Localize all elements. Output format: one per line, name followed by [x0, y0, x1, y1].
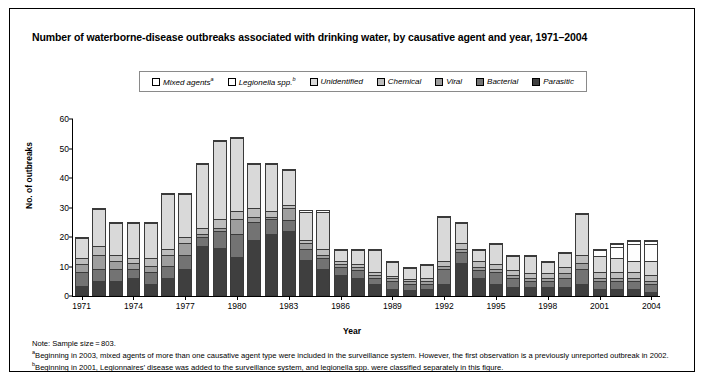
- bar-1994[interactable]: [472, 249, 486, 296]
- bar-2001[interactable]: [593, 249, 607, 296]
- bar-1976[interactable]: [161, 193, 175, 296]
- footnote-b-text: Beginning in 2001, Legionnaires’ disease…: [35, 362, 503, 371]
- bar-segment-parasitic: [490, 284, 502, 295]
- y-axis-tick-mark: [69, 178, 73, 179]
- bar-segment-unidentified: [335, 250, 347, 261]
- x-axis-tick-label: 1992: [435, 301, 454, 311]
- bar-1975[interactable]: [144, 222, 158, 296]
- bar-1998[interactable]: [541, 261, 555, 296]
- bar-segment-chemical: [93, 246, 105, 255]
- bar-segment-viral: [110, 261, 122, 270]
- x-axis-tick-mark: [82, 296, 83, 300]
- bar-segment-bacterial: [473, 270, 485, 278]
- x-axis-tick-mark: [444, 296, 445, 300]
- legend-item-parasitic[interactable]: Parasitic: [532, 78, 574, 86]
- bar-1997[interactable]: [524, 255, 538, 296]
- bar-1980[interactable]: [230, 137, 244, 296]
- legend-item-bacterial[interactable]: Bacterial: [476, 78, 518, 86]
- bar-segment-unidentified: [421, 265, 433, 279]
- bar-1971[interactable]: [75, 237, 89, 296]
- bar-slot: [367, 119, 384, 296]
- x-axis-tick-mark: [133, 296, 134, 300]
- bar-slot: [453, 119, 470, 296]
- bar-1979[interactable]: [213, 140, 227, 296]
- legend-item-chemical[interactable]: Chemical: [377, 78, 421, 86]
- bar-1978[interactable]: [196, 163, 210, 296]
- legend-item-mixed-agents[interactable]: Mixed agentsa: [152, 77, 214, 87]
- bar-segment-parasitic: [421, 289, 433, 295]
- legend-label: Bacterial: [487, 78, 518, 86]
- bar-1996[interactable]: [506, 255, 520, 296]
- bar-1983[interactable]: [282, 169, 296, 296]
- bar-1977[interactable]: [178, 193, 192, 296]
- legend-swatch-icon: [435, 78, 443, 86]
- bar-slot: [246, 119, 263, 296]
- bar-1991[interactable]: [420, 264, 434, 296]
- bar-1988[interactable]: [368, 249, 382, 296]
- bar-slot: [142, 119, 159, 296]
- bar-slot: [90, 119, 107, 296]
- bar-1981[interactable]: [247, 163, 261, 296]
- bar-segment-parasitic: [542, 287, 554, 295]
- legend-item-viral[interactable]: Viral: [435, 78, 462, 86]
- x-axis-tick-label: 1980: [228, 301, 247, 311]
- bar-2002[interactable]: [610, 243, 624, 296]
- bar-segment-legionella-spp: [645, 244, 657, 261]
- bar-slot: [505, 119, 522, 296]
- bar-segment-parasitic: [628, 289, 640, 295]
- legend-item-unidentified[interactable]: Unidentified: [310, 78, 363, 86]
- bar-segment-unidentified: [525, 256, 537, 273]
- bar-1995[interactable]: [489, 243, 503, 296]
- bar-1984[interactable]: [299, 210, 313, 296]
- bar-1985[interactable]: [316, 210, 330, 296]
- bar-segment-bacterial: [145, 272, 157, 283]
- bar-1999[interactable]: [558, 252, 572, 296]
- bar-segment-parasitic: [231, 257, 243, 295]
- bar-segment-parasitic: [576, 284, 588, 296]
- bar-segment-bacterial: [387, 281, 399, 289]
- bar-slot: [626, 119, 643, 296]
- bar-segment-bacterial: [317, 258, 329, 270]
- bar-1986[interactable]: [334, 249, 348, 296]
- x-axis-tick-mark: [548, 296, 549, 300]
- bar-segment-unidentified: [214, 141, 226, 220]
- legend-item-legionella-spp[interactable]: Legionella spp.b: [228, 77, 296, 87]
- bar-segment-parasitic: [473, 278, 485, 295]
- bar-segment-parasitic: [93, 281, 105, 295]
- bar-1987[interactable]: [351, 249, 365, 296]
- bar-1990[interactable]: [403, 267, 417, 297]
- bar-2000[interactable]: [575, 213, 589, 296]
- bar-segment-chemical: [248, 208, 260, 217]
- bar-segment-parasitic: [456, 263, 468, 295]
- x-axis-tick-mark: [341, 296, 342, 300]
- bar-1973[interactable]: [109, 222, 123, 296]
- bar-segment-unidentified: [93, 209, 105, 246]
- bar-1974[interactable]: [127, 222, 141, 296]
- bar-segment-bacterial: [645, 284, 657, 293]
- bar-segment-bacterial: [576, 269, 588, 283]
- bar-segment-parasitic: [162, 278, 174, 295]
- x-axis-tick-mark: [496, 296, 497, 300]
- x-axis-tick-label: 1977: [176, 301, 195, 311]
- bar-segment-bacterial: [231, 234, 243, 257]
- bar-1972[interactable]: [92, 208, 106, 297]
- bar-2003[interactable]: [627, 240, 641, 296]
- bar-segment-parasitic: [76, 286, 88, 295]
- bar-segment-parasitic: [248, 240, 260, 295]
- bar-segment-unidentified: [594, 256, 606, 273]
- bar-1993[interactable]: [455, 222, 469, 296]
- bar-segment-unidentified: [76, 238, 88, 258]
- bar-segment-unidentified: [162, 194, 174, 249]
- bar-1989[interactable]: [386, 261, 400, 296]
- bar-slot: [591, 119, 608, 296]
- bar-segment-unidentified: [404, 268, 416, 279]
- bar-1992[interactable]: [437, 216, 451, 296]
- bar-segment-unidentified: [611, 258, 623, 272]
- x-axis-tick-mark: [185, 296, 186, 300]
- bar-1982[interactable]: [265, 163, 279, 296]
- bar-segment-bacterial: [352, 270, 364, 278]
- bar-2004[interactable]: [644, 240, 658, 296]
- bar-segment-bacterial: [93, 269, 105, 281]
- bar-segment-parasitic: [283, 231, 295, 295]
- legend-swatch-icon: [377, 78, 385, 86]
